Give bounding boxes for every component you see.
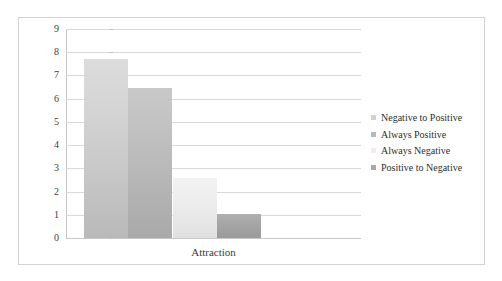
y-axis-label: 1 — [54, 210, 59, 220]
legend-item[interactable]: Always Negative — [371, 145, 462, 157]
y-axis-label: 4 — [54, 140, 59, 150]
chart-container: 9876543210 Attraction Negative to Positi… — [18, 17, 485, 265]
legend-label: Always Positive — [381, 129, 446, 141]
legend-label: Positive to Negative — [381, 162, 462, 174]
legend-swatch-icon — [371, 165, 376, 170]
y-axis-label: 3 — [54, 163, 59, 173]
legend-item[interactable]: Always Positive — [371, 129, 462, 141]
y-axis-label: 0 — [54, 233, 59, 243]
bar — [128, 88, 172, 238]
legend-item[interactable]: Positive to Negative — [371, 162, 462, 174]
legend-label: Negative to Positive — [381, 112, 462, 124]
chart-legend: Negative to PositiveAlways PositiveAlway… — [371, 112, 462, 173]
bar — [173, 178, 217, 238]
y-axis-label: 5 — [54, 117, 59, 127]
legend-label: Always Negative — [381, 145, 450, 157]
bar — [84, 59, 128, 238]
bar-group — [66, 29, 361, 238]
y-axis-tick — [109, 238, 113, 239]
y-axis-label: 6 — [54, 94, 59, 104]
y-axis-label: 8 — [54, 47, 59, 57]
legend-swatch-icon — [371, 148, 376, 153]
legend-swatch-icon — [371, 132, 376, 137]
x-axis-title: Attraction — [66, 246, 361, 258]
y-axis-label: 7 — [54, 70, 59, 80]
bar — [217, 214, 261, 238]
legend-item[interactable]: Negative to Positive — [371, 112, 462, 124]
y-axis-label: 9 — [54, 24, 59, 34]
plot-area: 9876543210 — [66, 29, 361, 238]
y-axis-label: 2 — [54, 187, 59, 197]
legend-swatch-icon — [371, 115, 376, 120]
